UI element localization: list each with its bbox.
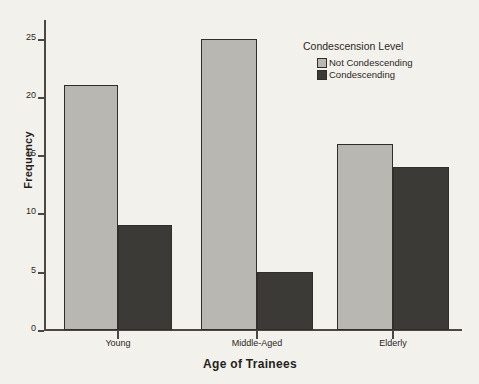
y-axis-tick: 20 [6, 97, 44, 98]
y-axis-title: Frequency [22, 100, 34, 220]
bar [257, 272, 313, 330]
x-category-label: Elderly [379, 338, 407, 348]
y-tick-mark [38, 330, 44, 332]
legend-swatch-not-condescending [317, 58, 327, 68]
legend-label-not-condescending: Not Condescending [329, 57, 412, 68]
y-axis-tick: 15 [6, 155, 44, 156]
x-category-label: Young [105, 338, 130, 348]
legend-item-condescending: Condescending [317, 69, 463, 80]
bar [118, 225, 172, 330]
y-tick-label: 15 [26, 148, 36, 158]
y-tick-mark [38, 97, 44, 99]
y-axis-tick: 10 [6, 213, 44, 214]
y-tick-mark [38, 213, 44, 215]
x-category-label: Middle-Aged [232, 338, 283, 348]
bar [201, 39, 257, 330]
x-axis-title: Age of Trainees [44, 357, 456, 371]
legend-title: Condescension Level [303, 40, 463, 52]
legend: Condescension Level Not Condescending Co… [303, 40, 463, 81]
y-tick-mark [38, 39, 44, 41]
y-axis-line [44, 20, 46, 331]
legend-swatch-condescending [317, 70, 327, 80]
y-tick-mark [38, 272, 44, 274]
y-tick-label: 10 [26, 206, 36, 216]
y-tick-label: 20 [26, 90, 36, 100]
y-tick-label: 5 [31, 265, 36, 275]
y-tick-label: 0 [31, 323, 36, 333]
bar [64, 85, 118, 330]
y-axis-tick: 25 [6, 39, 44, 40]
y-tick-label: 25 [26, 32, 36, 42]
bar-chart: Frequency Age of Trainees 0510152025 You… [0, 0, 479, 384]
bar [393, 167, 449, 330]
bar [337, 144, 393, 330]
y-axis-tick: 0 [6, 330, 44, 331]
y-tick-mark [38, 155, 44, 157]
legend-label-condescending: Condescending [329, 69, 395, 80]
legend-item-not-condescending: Not Condescending [317, 57, 463, 68]
y-axis-tick: 5 [6, 272, 44, 273]
